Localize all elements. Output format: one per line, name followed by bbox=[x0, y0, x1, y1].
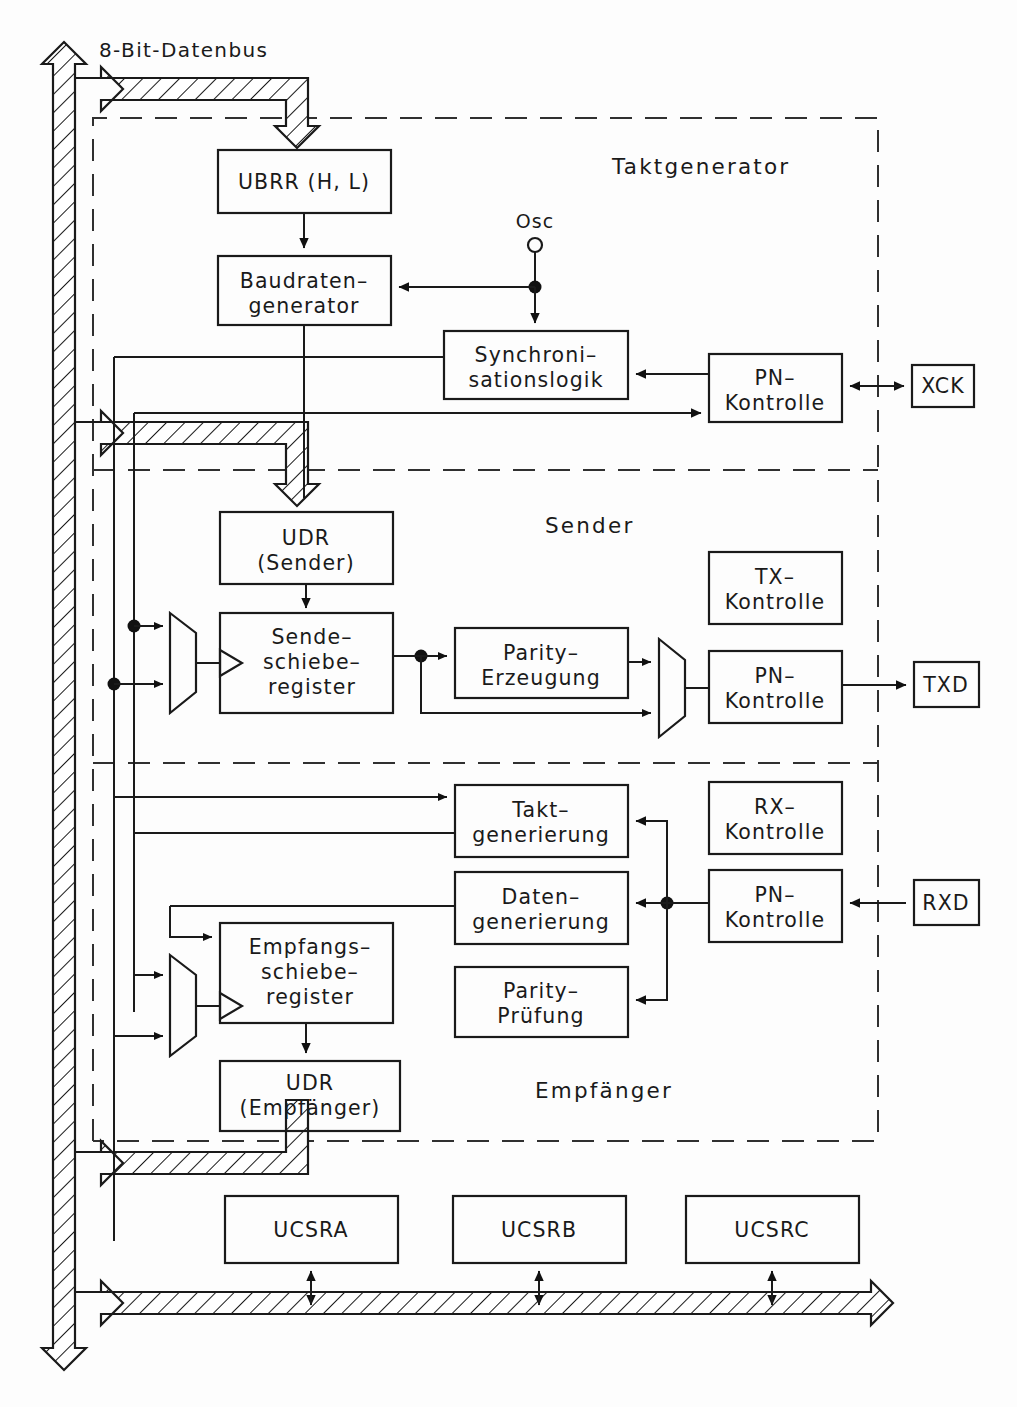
block-udr-sender-line2: (Sender) bbox=[257, 551, 354, 575]
block-takt-gen-line2: generierung bbox=[472, 823, 610, 847]
block-parity-pruef-line2: Prüfung bbox=[497, 1004, 584, 1028]
block-sync-line1: Synchroni– bbox=[475, 343, 598, 367]
block-udr-empf-line2: (Empfänger) bbox=[240, 1096, 381, 1120]
block-empfangsschiebe-line1: Empfangs– bbox=[249, 935, 372, 959]
block-pn-sender-line2: Kontrolle bbox=[725, 689, 825, 713]
block-sendeschiebe-line2: schiebe– bbox=[263, 650, 361, 674]
block-baudraten-line1: Baudraten– bbox=[240, 269, 369, 293]
pin-txd-label: TXD bbox=[922, 673, 969, 697]
section-label-empfaenger: Empfänger bbox=[535, 1078, 673, 1103]
block-empfangsschiebe-line2: schiebe– bbox=[261, 960, 359, 984]
block-parity-pruef-line1: Parity– bbox=[503, 979, 579, 1003]
block-tx-kontrolle-line1: TX– bbox=[754, 565, 795, 589]
block-ucsrb-label: UCSRB bbox=[501, 1218, 577, 1242]
block-sendeschiebe-line1: Sende– bbox=[271, 625, 352, 649]
block-pn-takt-line2: Kontrolle bbox=[725, 391, 825, 415]
section-label-taktgenerator: Taktgenerator bbox=[611, 154, 790, 179]
block-ucsra-label: UCSRA bbox=[273, 1218, 348, 1242]
block-pn-sender-line1: PN– bbox=[754, 664, 795, 688]
block-pn-empf-line2: Kontrolle bbox=[725, 908, 825, 932]
block-sync-line2: sationslogik bbox=[468, 368, 603, 392]
block-ubrr-label: UBRR (H, L) bbox=[238, 170, 370, 194]
section-label-sender: Sender bbox=[545, 513, 634, 538]
block-udr-empf-line1: UDR bbox=[286, 1071, 334, 1095]
block-udr-sender-line1: UDR bbox=[282, 526, 330, 550]
block-rx-kontrolle-line2: Kontrolle bbox=[725, 820, 825, 844]
block-takt-gen-line1: Takt– bbox=[511, 798, 569, 822]
block-tx-kontrolle-line2: Kontrolle bbox=[725, 590, 825, 614]
block-daten-gen-line2: generierung bbox=[472, 910, 610, 934]
pin-osc-label: Osc bbox=[516, 210, 554, 232]
block-parity-erz-line1: Parity– bbox=[503, 641, 579, 665]
bus-label: 8-Bit-Datenbus bbox=[99, 38, 268, 62]
block-pn-empf-line1: PN– bbox=[754, 883, 795, 907]
block-rx-kontrolle-line1: RX– bbox=[754, 795, 796, 819]
pin-rxd-label: RXD bbox=[922, 891, 969, 915]
pin-xck-label: XCK bbox=[921, 374, 965, 398]
block-daten-gen-line1: Daten– bbox=[502, 885, 581, 909]
block-ucsrc-label: UCSRC bbox=[734, 1218, 809, 1242]
block-sendeschiebe-line3: register bbox=[268, 675, 356, 699]
block-baudraten-line2: generator bbox=[248, 294, 359, 318]
uart-block-diagram: 8-Bit-Datenbus Taktgenerator UBRR (H, L)… bbox=[0, 0, 1017, 1407]
block-pn-takt-line1: PN– bbox=[754, 366, 795, 390]
block-empfangsschiebe-line3: register bbox=[266, 985, 354, 1009]
block-parity-erz-line2: Erzeugung bbox=[481, 666, 601, 690]
